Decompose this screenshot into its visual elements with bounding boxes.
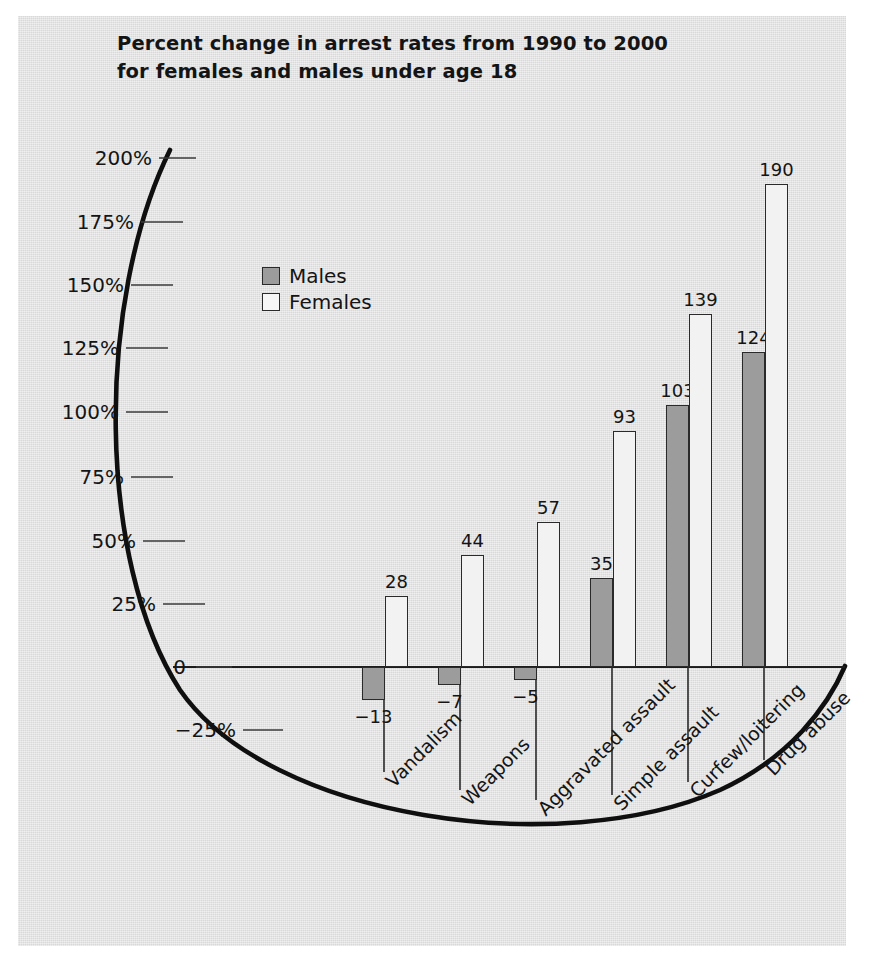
y-tick-label-175: 175% (22, 210, 134, 234)
legend-item-females: Females (262, 289, 372, 315)
bar-females-curfew-loitering (689, 314, 712, 667)
y-tick-label-75: 75% (24, 465, 124, 489)
chart-title-line-1: Percent change in arrest rates from 1990… (117, 30, 737, 58)
figure: Percent change in arrest rates from 1990… (0, 0, 869, 978)
bar-females-vandalism (385, 596, 408, 667)
legend-item-males: Males (262, 263, 372, 289)
y-tick-label-100: 100% (7, 400, 119, 424)
legend: Males Females (262, 263, 372, 315)
bar-value-label: 93 (613, 406, 636, 427)
bar-females-aggravated-assault (537, 522, 560, 667)
bar-females-weapons (461, 555, 484, 667)
bar-value-label: −13 (355, 706, 393, 727)
y-tick-label-neg25: −25% (126, 718, 236, 742)
bar-males-vandalism (362, 667, 385, 700)
legend-swatch-males-icon (262, 267, 280, 285)
bar-value-label: 28 (385, 571, 408, 592)
bar-females-simple-assault (613, 431, 636, 667)
y-tick-label-200: 200% (40, 146, 152, 170)
bar-value-label: 44 (461, 530, 484, 551)
y-tick-label-0: 0 (96, 655, 186, 679)
bar-males-curfew-loitering (666, 405, 689, 667)
legend-swatch-females-icon (262, 293, 280, 311)
chart-title: Percent change in arrest rates from 1990… (117, 30, 737, 85)
bar-males-aggravated-assault (514, 667, 537, 680)
bar-value-label: 190 (759, 159, 793, 180)
y-tick-label-150: 150% (12, 273, 124, 297)
bar-males-simple-assault (590, 578, 613, 667)
legend-label-females: Females (289, 292, 372, 312)
bar-value-label: −5 (512, 686, 539, 707)
chart-title-line-2: for females and males under age 18 (117, 58, 737, 86)
bar-males-drug-abuse (742, 352, 765, 667)
bar-value-label: 57 (537, 497, 560, 518)
legend-label-males: Males (289, 266, 347, 286)
bar-females-drug-abuse (765, 184, 788, 667)
y-tick-label-125: 125% (7, 336, 119, 360)
bar-value-label: 35 (590, 553, 613, 574)
y-tick-label-25: 25% (56, 592, 156, 616)
bar-males-weapons (438, 667, 461, 685)
bar-value-label: 139 (683, 289, 717, 310)
y-tick-label-50: 50% (36, 529, 136, 553)
